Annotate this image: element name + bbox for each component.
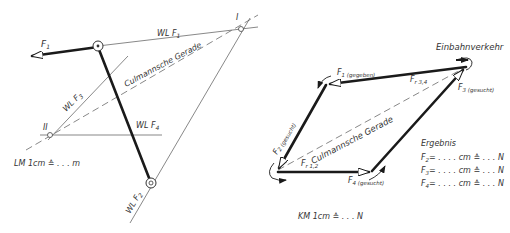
result-row-f4: F4= . . . . cm ≙ . . . N xyxy=(421,179,504,189)
intersection-point-ii xyxy=(48,133,53,138)
result-title: Ergebnis xyxy=(421,139,456,148)
label-wl-f1: WL F1 xyxy=(157,29,180,39)
label-f3-sought: F3 (gesucht) xyxy=(458,83,494,94)
label-point-i: I xyxy=(236,13,239,22)
label-force-scale: KM 1cm ≙ . . . N xyxy=(298,212,363,221)
label-f4-sought: F4 (gesucht) xyxy=(348,176,384,187)
label-length-scale: LM 1cm ≙ . . . m xyxy=(14,159,80,168)
result-row-f2: F2= . . . . cm ≙ . . . N xyxy=(421,153,504,163)
direction-arrow-bottom-right xyxy=(369,166,385,180)
label-point-ii: II xyxy=(43,123,48,132)
label-einbahnverkehr: Einbahnverkehr xyxy=(436,42,504,52)
label-culmann-right: Culmannsche Gerade xyxy=(309,114,394,166)
label-fr34: Fr 3,4 xyxy=(410,75,428,85)
label-f2-sought: F2 (gesucht) xyxy=(271,120,298,156)
label-wl-f3: WL F3 xyxy=(61,90,85,114)
label-culmann-left: Culmannsche Gerade xyxy=(123,40,203,88)
label-f1-given: F1 (gegeben) xyxy=(337,68,375,79)
kraefteplan: Einbahnverkehr F1 (gegeben) Fr 3,4 F3 (g… xyxy=(269,42,504,221)
joint-node-bottom xyxy=(146,178,156,188)
result-block: Ergebnis F2= . . . . cm ≙ . . . N F3= . … xyxy=(421,139,504,189)
label-f1: F1 xyxy=(41,39,50,50)
joint-node-top-center xyxy=(97,45,100,48)
result-row-f3: F3= . . . . cm ≙ . . . N xyxy=(421,166,504,176)
lageplan: F1 WL F1 I II WL F4 WL F3 WL F2 Culmanns… xyxy=(14,13,258,223)
culmann-diagram: F1 WL F1 I II WL F4 WL F3 WL F2 Culmanns… xyxy=(0,0,510,233)
intersection-point-i xyxy=(239,27,244,32)
label-wl-f4: WL F4 xyxy=(136,121,160,131)
label-wl-f2: WL F2 xyxy=(124,190,144,215)
structure-bar xyxy=(98,47,151,183)
